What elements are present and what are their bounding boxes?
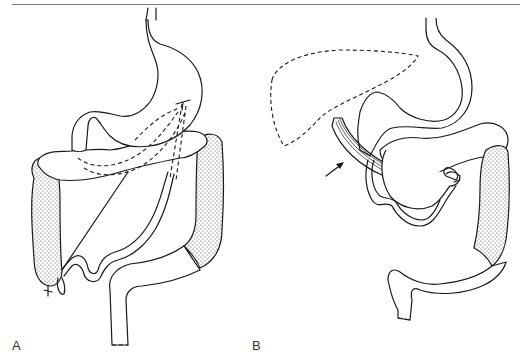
- t-fastener-bottom: [44, 286, 52, 296]
- panel-a-illustration: [0, 0, 260, 358]
- sigmoid-colon: [110, 246, 200, 345]
- liver-outline: [271, 50, 418, 146]
- descending-colon: [474, 146, 509, 266]
- panel-a-label: A: [12, 338, 21, 353]
- panel-a: A: [0, 0, 260, 358]
- stomach: [72, 20, 202, 152]
- panel-b-illustration: [260, 0, 520, 358]
- esophagus: [146, 8, 156, 20]
- panel-b-label: B: [252, 338, 261, 353]
- small-bowel: [62, 172, 168, 274]
- sigmoid-colon: [388, 262, 506, 320]
- guide-line: [62, 172, 128, 270]
- panel-b: B: [260, 0, 520, 358]
